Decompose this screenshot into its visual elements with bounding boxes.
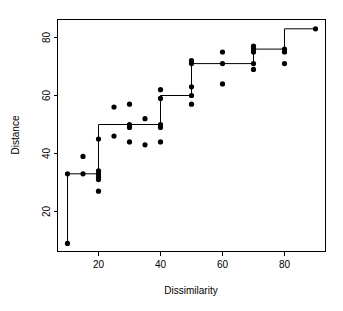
data-point (127, 125, 132, 130)
data-point (111, 134, 116, 139)
data-point (65, 171, 70, 176)
data-point (127, 102, 132, 107)
data-point (220, 61, 225, 66)
data-point (282, 61, 287, 66)
x-tick-label-80: 80 (279, 259, 291, 270)
y-tick-label-20: 20 (41, 206, 52, 218)
data-point (127, 139, 132, 144)
data-point (282, 49, 287, 54)
x-tick-label-20: 20 (93, 259, 105, 270)
data-point (96, 189, 101, 194)
data-point (142, 116, 147, 121)
y-axis-title: Distance (10, 115, 21, 154)
y-tick-label-40: 40 (41, 148, 52, 160)
data-point (158, 87, 163, 92)
y-tick-label-80: 80 (41, 32, 52, 44)
data-point (96, 136, 101, 141)
data-point (158, 139, 163, 144)
y-tick-label-60: 60 (41, 90, 52, 102)
data-point (189, 102, 194, 107)
data-point (251, 67, 256, 72)
data-point (96, 177, 101, 182)
data-point (158, 125, 163, 130)
data-point (80, 154, 85, 159)
data-point (80, 171, 85, 176)
x-tick-label-60: 60 (217, 259, 229, 270)
x-axis-title: Dissimilarity (164, 285, 217, 296)
chart-container: 80 60 40 20 20 40 60 80 Dissimilarity Di… (0, 0, 343, 311)
data-point (189, 84, 194, 89)
data-point (189, 93, 194, 98)
data-point (111, 105, 116, 110)
data-point (189, 61, 194, 66)
data-point (158, 96, 163, 101)
data-point (251, 61, 256, 66)
data-point (220, 49, 225, 54)
scatter-plot: 80 60 40 20 20 40 60 80 Dissimilarity Di… (0, 0, 343, 311)
data-point (251, 49, 256, 54)
data-point (313, 26, 318, 31)
data-point (65, 241, 70, 246)
data-point (220, 81, 225, 86)
x-tick-label-40: 40 (155, 259, 167, 270)
data-point (142, 142, 147, 147)
